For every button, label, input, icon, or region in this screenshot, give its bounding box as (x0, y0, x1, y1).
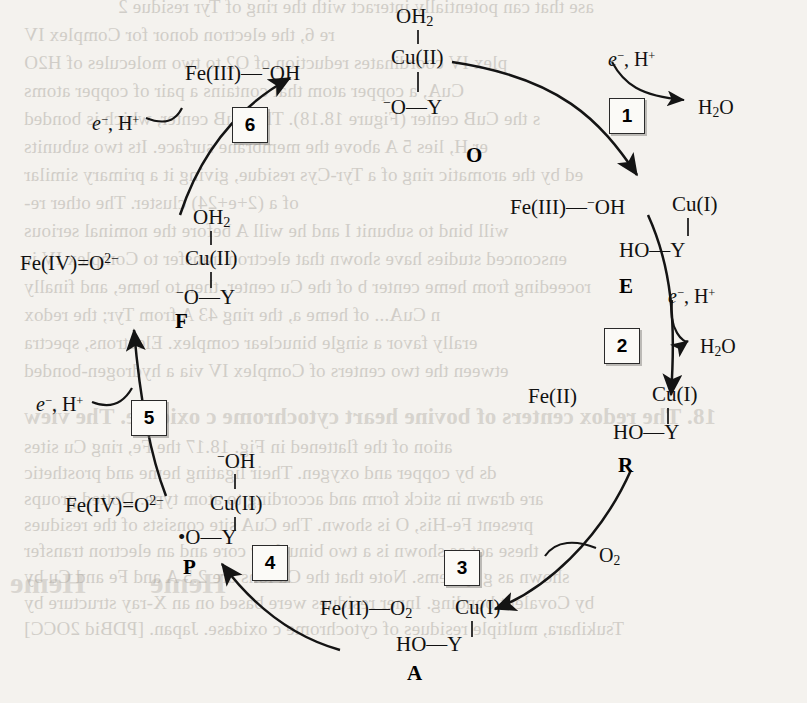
structure-F-copper: Cu(II) (185, 248, 237, 269)
step-box-6: 6 (232, 107, 268, 143)
structure-P-top-ligand: −OH (217, 450, 255, 472)
cofactor-label-electron-proton: e−, H+ (668, 285, 715, 308)
bleed-text: ds by copper and oxygen. Their ligating … (24, 462, 497, 484)
structure-label-R: R (618, 453, 633, 478)
molecule-label-water: H2O (700, 335, 736, 360)
feeder-arrow-electron-5 (92, 388, 132, 405)
molecule-label-dioxygen: O2 (599, 544, 620, 569)
bleed-text-heme: Heme (10, 566, 86, 600)
step-box-2: 2 (604, 328, 640, 364)
cycle-arrow-step-3 (495, 470, 631, 609)
structure-E-iron: Fe(III)—−OH (510, 196, 625, 218)
structure-F-tyrosine: −O—Y (176, 286, 235, 308)
structure-O-copper: Cu(II) (391, 47, 443, 68)
molecule-label-water: H2O (698, 96, 734, 121)
structure-O-tyrosine: −O—Y (383, 96, 442, 118)
catalytic-cycle-figure: ase that can potentially interact with t… (0, 0, 807, 703)
step-box-4: 4 (252, 545, 288, 581)
bleed-text: etween the two centers of Complex IV via… (24, 360, 509, 382)
cycle-arrow-step-6 (180, 78, 290, 215)
feeder-arrow-electron-6 (146, 108, 182, 122)
step-box-3: 3 (444, 550, 480, 586)
step-box-5: 5 (131, 400, 167, 436)
bleed-text: erally favor a single binuclear complex.… (24, 332, 477, 354)
structure-label-O: O (466, 143, 482, 168)
bleed-text: shown as g systems. Note that the Cu ion… (24, 566, 570, 588)
structure-label-A: A (407, 661, 422, 686)
bleed-text: roceeding from heme center b of the Cu c… (24, 276, 591, 298)
bleed-text: ase that can potentially interact with t… (118, 0, 594, 18)
bleed-text: re 6, the electron donor for Complex IV (24, 24, 335, 46)
structure-R-tyrosine: HO—Y (613, 422, 680, 443)
structure-P-copper: Cu(II) (210, 493, 262, 514)
bleed-text: will bind to subunit I and he will A bef… (24, 220, 508, 242)
structure-R-copper: Cu(I) (652, 384, 698, 405)
cofactor-label-electron-proton: e−, H+ (608, 48, 655, 71)
structure-label-E: E (619, 274, 633, 299)
structure-A-tyrosine: HO—Y (396, 634, 463, 655)
cofactor-label-electron-proton: e−, H+ (36, 393, 83, 416)
structure-F-iron: Fe(IV)=O2− (20, 252, 119, 274)
structure-O-iron: Fe(III)—−OH (185, 62, 300, 84)
step-box-1: 1 (609, 98, 645, 134)
structure-P-iron: Fe(IV)=O2− (65, 494, 164, 516)
feeder-arrow-o2 (545, 543, 596, 556)
structure-O-top-ligand: OH2 (396, 6, 433, 28)
bleed-text: present Fe-His, O is shown. The CuA site… (24, 514, 533, 536)
structure-label-F: F (175, 309, 188, 334)
structure-R-iron: Fe(II) (528, 386, 577, 407)
bleed-text: ed by the aromatic ring of a Tyr-Cys res… (24, 164, 583, 186)
structure-P-tyrosyl-radical: •O—Y (178, 527, 237, 548)
cofactor-label-electron-proton: e−, H+ (92, 112, 139, 135)
structure-A-copper: Cu(I) (455, 597, 501, 618)
bleed-text: Tsukihara, multiple residues of cytochro… (24, 618, 624, 640)
structure-E-tyrosine: HO—Y (619, 240, 686, 261)
structure-E-copper: Cu(I) (672, 194, 718, 215)
structure-label-P: P (183, 555, 196, 580)
structure-F-top-ligand: OH2 (193, 207, 230, 229)
bleed-text: of a (2+e+24) cluster. The other re- (24, 192, 299, 214)
structure-A-iron: Fe(II)—O2 (320, 598, 412, 620)
bleed-text: by Covalent bonding. Inner residues were… (24, 592, 594, 614)
